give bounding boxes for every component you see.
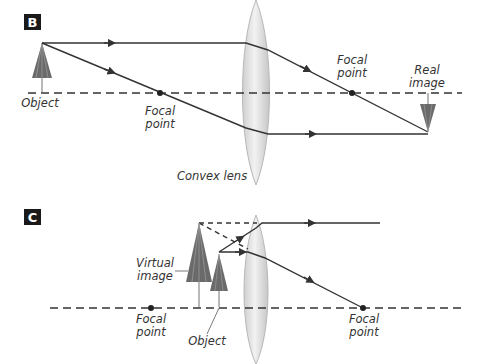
object-umbrella-b-icon — [32, 43, 52, 92]
arrow-icon — [300, 66, 308, 70]
focal-point-right-b — [349, 90, 355, 96]
panel-b-badge-label: B — [28, 15, 38, 30]
object-label-c: Object — [188, 334, 226, 348]
real-image-label-line2: image — [409, 76, 445, 90]
virtual-image-label: Virtual — [136, 256, 175, 270]
virtual-image-umbrella-icon — [186, 223, 212, 307]
focal-point-right-c — [360, 305, 366, 311]
convex-lens-c — [244, 215, 268, 364]
real-image-umbrella-icon — [420, 93, 436, 132]
object-label-b: Object — [21, 96, 59, 110]
ray-parallel-c — [219, 252, 363, 308]
focal-right-label-c: Focal — [349, 312, 380, 326]
focal-point-left-c — [148, 305, 154, 311]
virtual-ray-diverging — [199, 223, 248, 249]
focal-right-label-c-line2: point — [348, 325, 379, 339]
focal-point-left-b — [157, 90, 163, 96]
panel-c-badge-label: C — [28, 210, 38, 225]
focal-right-label-b-line2: point — [336, 66, 367, 80]
arrow-icon — [104, 69, 112, 72]
focal-left-label-c: Focal — [136, 312, 167, 326]
focal-right-label-b: Focal — [337, 53, 368, 67]
optics-diagram: B Object Fo — [0, 0, 484, 364]
ray-through-lens-c — [219, 223, 380, 252]
focal-left-label-b: Focal — [145, 104, 176, 118]
real-image-label: Real — [414, 63, 440, 77]
object-leader-c — [207, 308, 219, 334]
focal-left-label-b-line2: point — [144, 117, 175, 131]
panel-c: C — [24, 209, 462, 364]
convex-lens-label: Convex lens — [177, 169, 247, 183]
ray-parallel-b — [42, 43, 428, 132]
ray-focal-b — [42, 43, 428, 134]
panel-b: B Object Fo — [21, 0, 462, 185]
object-umbrella-c-icon — [210, 254, 228, 307]
virtual-image-label-line2: image — [137, 269, 173, 283]
arrow-icon — [236, 238, 241, 241]
focal-left-label-c-line2: point — [135, 325, 166, 339]
